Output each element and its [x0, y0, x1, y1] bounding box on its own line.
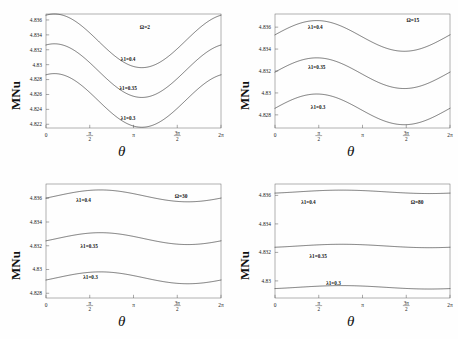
svg-text:4.832: 4.832	[30, 243, 42, 249]
svg-text:4.834: 4.834	[259, 46, 271, 52]
svg-text:4.826: 4.826	[30, 91, 42, 97]
svg-text:4.832: 4.832	[259, 249, 271, 255]
chart-panel-bottom-left: MNu θ 4.8284.834.8324.8344.8360π2π3π22πΩ…	[0, 170, 229, 339]
y-axis-label: MNu	[8, 81, 24, 110]
data-curve	[275, 190, 450, 193]
svg-text:π: π	[361, 302, 364, 308]
svg-text:4.824: 4.824	[30, 106, 42, 112]
svg-text:4.832: 4.832	[259, 68, 271, 74]
svg-text:π: π	[88, 130, 91, 136]
panel-omega-label: Ω=15	[406, 17, 419, 23]
svg-text:2π: 2π	[218, 302, 224, 308]
curve-series-label: λ1=0.35	[308, 64, 326, 70]
svg-text:2: 2	[176, 306, 179, 312]
svg-text:π: π	[317, 130, 320, 136]
svg-text:0: 0	[274, 132, 277, 138]
y-axis-label: MNu	[8, 251, 24, 280]
svg-text:4.836: 4.836	[259, 24, 271, 30]
data-curve	[275, 21, 450, 52]
curve-series-label: λ1=0.3	[121, 115, 136, 121]
data-curve	[275, 58, 450, 89]
svg-text:4.836: 4.836	[259, 192, 271, 198]
svg-text:4.83: 4.83	[33, 266, 43, 272]
plot-area-top-right: 4.8284.834.8324.8344.8360π2π3π22πΩ=15λ1=…	[229, 0, 458, 169]
curve-series-label: λ1=0.4	[121, 56, 136, 62]
chart-panel-top-right: MNu θ 4.8284.834.8324.8344.8360π2π3π22πΩ…	[229, 0, 458, 169]
svg-text:4.828: 4.828	[30, 290, 42, 296]
svg-text:4.83: 4.83	[262, 90, 272, 96]
svg-text:π: π	[132, 132, 135, 138]
curve-series-label: λ1=0.35	[310, 253, 328, 259]
svg-text:4.834: 4.834	[259, 221, 271, 227]
svg-text:3π: 3π	[175, 130, 181, 136]
svg-text:4.83: 4.83	[33, 62, 43, 68]
curve-series-label: λ1=0.4	[76, 197, 91, 203]
svg-text:2π: 2π	[218, 132, 224, 138]
chart-panel-bottom-right: MNu θ 4.834.8324.8344.8360π2π3π22πΩ=80λ1…	[229, 170, 458, 339]
svg-text:3π: 3π	[175, 300, 181, 306]
svg-text:4.832: 4.832	[30, 47, 42, 53]
panel-omega-label: Ω=80	[411, 199, 424, 205]
data-curve	[275, 244, 450, 247]
svg-text:3π: 3π	[404, 300, 410, 306]
panel-omega-label: Ω=30	[175, 193, 188, 199]
svg-text:4.834: 4.834	[30, 32, 42, 38]
svg-text:4.836: 4.836	[30, 195, 42, 201]
svg-text:2: 2	[88, 136, 91, 142]
svg-text:0: 0	[274, 302, 277, 308]
svg-text:π: π	[132, 302, 135, 308]
curve-series-label: λ1=0.3	[83, 274, 98, 280]
plot-area-bottom-right: 4.834.8324.8344.8360π2π3π22πΩ=80λ1=0.4λ1…	[229, 170, 458, 339]
chart-panel-top-left: MNu θ 4.8224.8244.8264.8284.834.8324.834…	[0, 0, 229, 169]
svg-text:2: 2	[88, 306, 91, 312]
svg-text:4.828: 4.828	[30, 76, 42, 82]
data-curve	[275, 286, 450, 289]
panel-omega-label: Ω=2	[140, 24, 150, 30]
y-axis-label: MNu	[237, 81, 253, 110]
x-axis-label: θ	[118, 313, 125, 330]
data-curve	[46, 190, 221, 202]
svg-text:2: 2	[317, 136, 320, 142]
x-axis-label: θ	[118, 143, 125, 160]
svg-text:4.828: 4.828	[259, 112, 271, 118]
svg-text:π: π	[361, 132, 364, 138]
curve-series-label: λ1=0.35	[120, 85, 138, 91]
data-curve	[275, 94, 450, 125]
x-axis-label: θ	[347, 313, 354, 330]
svg-text:4.822: 4.822	[30, 121, 42, 127]
data-curve	[46, 233, 221, 245]
svg-text:2π: 2π	[447, 302, 453, 308]
svg-text:4.834: 4.834	[30, 219, 42, 225]
svg-text:4.83: 4.83	[262, 278, 272, 284]
svg-text:0: 0	[45, 302, 48, 308]
svg-text:4.836: 4.836	[30, 17, 42, 23]
curve-series-label: λ1=0.4	[301, 199, 316, 205]
plot-area-bottom-left: 4.8284.834.8324.8344.8360π2π3π22πΩ=30λ1=…	[0, 170, 229, 339]
curve-series-label: λ1=0.35	[81, 243, 99, 249]
svg-text:3π: 3π	[404, 130, 410, 136]
figure-canvas: MNu θ 4.8224.8244.8264.8284.834.8324.834…	[0, 0, 458, 339]
data-curve	[46, 272, 221, 284]
svg-text:π: π	[88, 300, 91, 306]
plot-area-top-left: 4.8224.8244.8264.8284.834.8324.8344.8360…	[0, 0, 229, 169]
svg-text:0: 0	[45, 132, 48, 138]
curve-series-label: λ1=0.3	[326, 280, 341, 286]
svg-text:2: 2	[405, 306, 408, 312]
svg-text:2: 2	[405, 136, 408, 142]
svg-text:2: 2	[317, 306, 320, 312]
curve-series-label: λ1=0.4	[308, 24, 323, 30]
x-axis-label: θ	[347, 143, 354, 160]
svg-text:2: 2	[176, 136, 179, 142]
y-axis-label: MNu	[237, 251, 253, 280]
curve-series-label: λ1=0.3	[311, 104, 326, 110]
svg-text:2π: 2π	[447, 132, 453, 138]
svg-text:π: π	[317, 300, 320, 306]
